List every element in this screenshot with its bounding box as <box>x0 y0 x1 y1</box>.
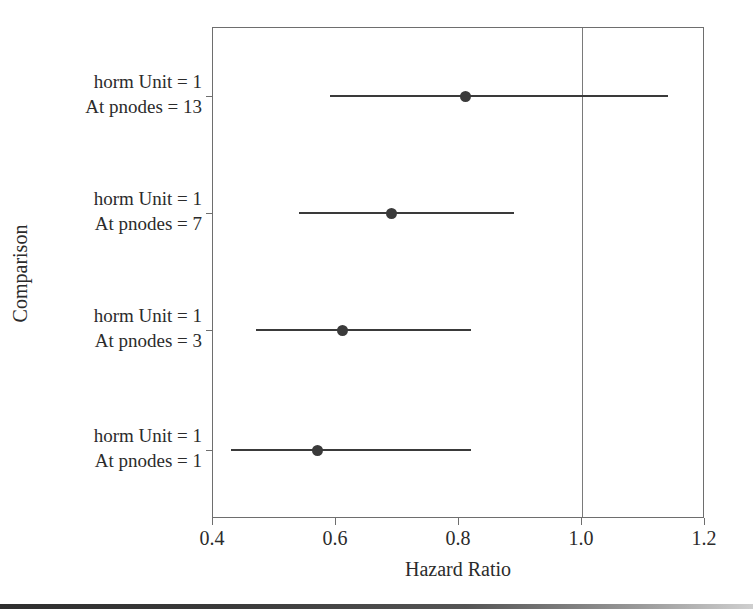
y-axis-category-label: horm Unit = 1At pnodes = 7 <box>12 186 202 236</box>
forest-plot-figure: Comparison horm Unit = 1At pnodes = 13ho… <box>0 0 753 614</box>
x-axis-tick <box>458 518 459 525</box>
x-axis-tick-label: 0.6 <box>300 527 370 550</box>
confidence-interval-line <box>330 95 668 97</box>
y-axis-tick <box>206 213 213 214</box>
category-label-line1: horm Unit = 1 <box>12 186 202 211</box>
confidence-interval-line <box>299 212 514 214</box>
y-axis-tick <box>206 96 213 97</box>
y-axis-category-label: horm Unit = 1At pnodes = 13 <box>12 69 202 119</box>
x-axis-title: Hazard Ratio <box>212 558 704 581</box>
x-axis-tick <box>335 518 336 525</box>
confidence-interval-line <box>231 449 471 451</box>
x-axis-tick-label: 0.8 <box>423 527 493 550</box>
reference-line-icon <box>582 28 583 517</box>
y-axis-category-label: horm Unit = 1At pnodes = 3 <box>12 303 202 353</box>
point-estimate-marker <box>386 208 397 219</box>
category-label-line1: horm Unit = 1 <box>12 69 202 94</box>
x-axis-tick <box>212 518 213 525</box>
y-axis-category-label: horm Unit = 1At pnodes = 1 <box>12 423 202 473</box>
category-label-line1: horm Unit = 1 <box>12 303 202 328</box>
category-label-line2: At pnodes = 3 <box>12 328 202 353</box>
confidence-interval-line <box>256 329 471 331</box>
y-axis-tick <box>206 450 213 451</box>
point-estimate-marker <box>312 445 323 456</box>
x-axis-tick-label: 1.0 <box>546 527 616 550</box>
category-label-line2: At pnodes = 1 <box>12 448 202 473</box>
x-axis-tick-label: 0.4 <box>177 527 247 550</box>
x-axis-tick <box>581 518 582 525</box>
point-estimate-marker <box>460 91 471 102</box>
plot-area <box>212 27 704 518</box>
point-estimate-marker <box>337 325 348 336</box>
category-label-line1: horm Unit = 1 <box>12 423 202 448</box>
category-label-line2: At pnodes = 13 <box>12 94 202 119</box>
x-axis-tick-label: 1.2 <box>669 527 739 550</box>
x-axis-tick <box>704 518 705 525</box>
page-edge-artifact <box>0 604 753 609</box>
y-axis-tick <box>206 330 213 331</box>
category-label-line2: At pnodes = 7 <box>12 211 202 236</box>
